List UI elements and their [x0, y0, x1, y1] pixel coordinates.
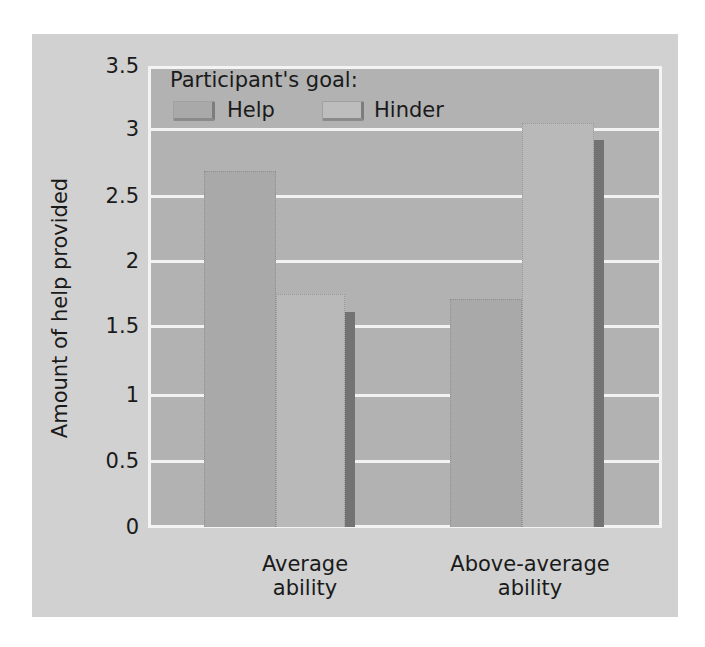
ytick-1-5: 1.5	[79, 315, 139, 337]
legend-swatch-hinder	[322, 101, 364, 121]
x-category-average-line2: ability	[230, 576, 380, 600]
marker-average	[345, 312, 355, 527]
x-category-above-average-line1: Above-average	[430, 552, 630, 576]
x-category-average: Average ability	[230, 552, 380, 600]
x-category-above-average-line2: ability	[430, 576, 630, 600]
legend-swatch-help	[173, 101, 215, 121]
legend-label-help: Help	[227, 98, 275, 122]
bar-above-average-hinder	[522, 123, 594, 527]
y-axis-label: Amount of help provided	[48, 178, 72, 438]
legend-label-hinder: Hinder	[374, 98, 444, 122]
x-category-above-average: Above-average ability	[430, 552, 630, 600]
marker-above-average	[594, 140, 604, 527]
bar-above-average-help	[450, 299, 522, 527]
bar-average-hinder	[276, 294, 345, 527]
ytick-3: 3	[79, 118, 139, 140]
bar-average-help	[204, 171, 276, 527]
legend-title: Participant's goal:	[170, 68, 358, 92]
x-category-average-line1: Average	[230, 552, 380, 576]
ytick-0-5: 0.5	[79, 450, 139, 472]
ytick-2: 2	[79, 250, 139, 272]
ytick-2-5: 2.5	[79, 185, 139, 207]
ytick-0: 0	[79, 516, 139, 538]
ytick-3-5: 3.5	[79, 55, 139, 77]
ytick-1: 1	[79, 384, 139, 406]
